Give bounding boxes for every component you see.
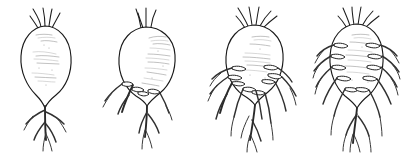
figure-drawing-surface <box>0 0 411 157</box>
nodule <box>232 82 245 86</box>
nodule <box>252 91 265 95</box>
root-nodulation-figure: Progressive root nodulation series on ta… <box>0 0 411 157</box>
nodule <box>122 82 133 86</box>
nodule <box>356 88 369 92</box>
nodule <box>262 80 275 84</box>
nodule <box>138 92 149 96</box>
